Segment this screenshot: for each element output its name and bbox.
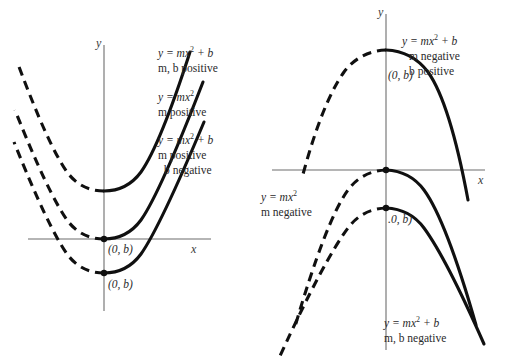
- right-curve-b-positive-dashed: [302, 50, 386, 178]
- right-annotation-b-negative-equation: y = mx2 + b: [384, 316, 446, 331]
- left-curve-b-zero-dashed: [15, 110, 104, 239]
- left-annotation-b-zero-equation: y = mx2: [158, 90, 206, 105]
- right-x-axis-label: x: [478, 173, 483, 189]
- left-annotation-b-positive: y = mx2 + b m, b positive: [158, 46, 218, 76]
- panel-m-negative: y x y = mx2 + b m negative b positive y …: [254, 0, 508, 363]
- right-annotation-b-zero-condition-0: m negative: [261, 205, 312, 220]
- right-curve-b-zero-solid: [386, 170, 476, 325]
- right-panel-plot: [254, 0, 508, 363]
- eq-main: y = mx: [402, 35, 434, 47]
- eq-main: y = mx: [158, 91, 190, 103]
- left-vertex-dot-origin: [101, 236, 107, 242]
- right-annotation-b-zero-equation: y = mx2: [261, 190, 312, 205]
- panel-m-positive: y x y = mx2 + b m, b positive y = mx2 m …: [0, 0, 254, 363]
- right-vertex-dot-b-negative: [383, 205, 389, 211]
- right-point-label-b-positive: (0, b): [388, 68, 413, 83]
- left-point-label-origin: (0, b): [108, 242, 133, 257]
- left-annotation-b-negative-condition-0: m positive: [158, 148, 213, 163]
- right-y-axis-label: y: [378, 5, 383, 21]
- left-annotation-b-negative-equation: y = mx2 + b: [158, 133, 213, 148]
- left-x-axis-label: x: [191, 242, 196, 258]
- left-point-label-b-negative: (0, b): [108, 277, 133, 292]
- right-annotation-b-zero: y = mx2 m negative: [261, 190, 312, 220]
- eq-tail: + b: [420, 317, 439, 329]
- eq-main: y = mx: [158, 47, 190, 59]
- eq-exponent: 2: [293, 189, 297, 198]
- left-vertex-dot-b-negative: [101, 270, 107, 276]
- left-annotation-b-zero-condition-0: m positive: [158, 105, 206, 120]
- eq-tail: + b: [194, 134, 213, 146]
- left-y-axis-label: y: [96, 36, 101, 52]
- right-annotation-b-positive-equation: y = mx2 + b: [402, 34, 460, 49]
- left-curve-b-negative-dashed: [14, 142, 104, 273]
- eq-tail: + b: [438, 35, 457, 47]
- left-annotation-b-zero: y = mx2 m positive: [158, 90, 206, 120]
- left-annotation-b-negative: y = mx2 + b m positive b negative: [158, 133, 213, 179]
- right-vertex-dot-origin: [383, 167, 389, 173]
- eq-main: y = mx: [158, 134, 190, 146]
- eq-exponent: 2: [190, 89, 194, 98]
- left-annotation-b-negative-condition-1: b negative: [158, 163, 213, 178]
- left-curve-b-positive-dashed: [18, 64, 104, 191]
- right-curve-b-negative-dashed: [280, 208, 386, 356]
- left-annotation-b-positive-equation: y = mx2 + b: [158, 46, 218, 61]
- parabola-family-figure: y x y = mx2 + b m, b positive y = mx2 m …: [0, 0, 508, 363]
- eq-main: y = mx: [261, 191, 293, 203]
- right-point-label-b-negative: .0, b): [388, 212, 412, 227]
- eq-main: y = mx: [384, 317, 416, 329]
- right-annotation-b-negative: y = mx2 + b m, b negative: [384, 316, 446, 346]
- right-annotation-b-positive-condition-0: m negative: [402, 49, 460, 64]
- right-annotation-b-negative-condition-0: m, b negative: [384, 331, 446, 346]
- left-annotation-b-positive-condition-0: m, b positive: [158, 61, 218, 76]
- eq-tail: + b: [194, 47, 213, 59]
